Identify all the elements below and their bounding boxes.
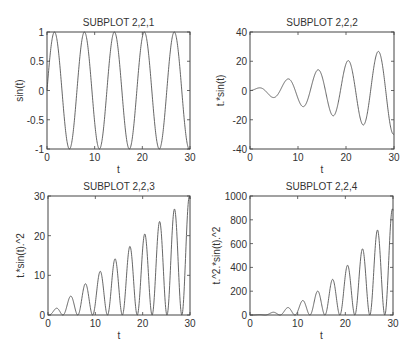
y-tick-label: 20 xyxy=(236,56,248,67)
subplot-1-line xyxy=(47,32,190,149)
x-tick-label: 10 xyxy=(89,152,101,163)
x-tick-label: 20 xyxy=(340,152,352,163)
y-tick-label: 400 xyxy=(230,262,247,273)
y-tick-label: -40 xyxy=(233,144,248,155)
y-tick-label: 0 xyxy=(39,310,45,321)
subplot-2: SUBPLOT 2,2,2 t t.*sin(t) 0102030-40-200… xyxy=(215,17,400,175)
y-tick-label: 30 xyxy=(34,191,46,202)
subplot-4: SUBPLOT 2,2,4 t t.^2.*sin(t).^2 01020300… xyxy=(211,181,399,341)
subplot-3-title: SUBPLOT 2,2,3 xyxy=(83,181,155,192)
subplot-2-title: SUBPLOT 2,2,2 xyxy=(286,17,358,28)
subplot-1-xlabel: t xyxy=(117,164,120,175)
x-tick-label: 30 xyxy=(387,318,399,329)
subplot-2-axes xyxy=(250,32,394,149)
subplot-4-xlabel: t xyxy=(320,330,323,341)
y-tick-label: 800 xyxy=(230,215,247,226)
subplot-4-ylabel: t.^2.*sin(t).^2 xyxy=(211,226,222,284)
y-tick-label: 10 xyxy=(34,270,46,281)
y-tick-label: 20 xyxy=(34,231,46,242)
y-tick-label: 1000 xyxy=(225,191,248,202)
y-tick-label: 0 xyxy=(241,310,247,321)
x-tick-label: 20 xyxy=(137,318,149,329)
x-tick-label: 10 xyxy=(292,318,304,329)
y-tick-label: 0 xyxy=(38,86,44,97)
y-tick-label: 1 xyxy=(38,27,44,38)
subplot-2-line xyxy=(250,51,394,134)
subplot-4-line xyxy=(250,209,393,315)
x-tick-label: 0 xyxy=(247,152,253,163)
y-tick-label: 600 xyxy=(230,239,247,250)
subplot-4-axes xyxy=(250,196,393,315)
subplot-1-ylabel: sin(t) xyxy=(14,79,25,101)
x-tick-label: 30 xyxy=(388,152,400,163)
y-tick-label: -0.5 xyxy=(27,115,45,126)
y-tick-label: -1 xyxy=(35,144,44,155)
y-tick-label: 40 xyxy=(236,27,248,38)
y-tick-label: -20 xyxy=(233,115,248,126)
x-tick-label: 20 xyxy=(137,152,149,163)
y-tick-label: 0 xyxy=(241,86,247,97)
x-tick-label: 0 xyxy=(247,318,253,329)
figure: SUBPLOT 2,2,1 t sin(t) 0102030-1-0.500.5… xyxy=(0,0,417,352)
subplot-3: SUBPLOT 2,2,3 t t.*sin(t).^2 01020300102… xyxy=(15,181,196,341)
x-tick-label: 10 xyxy=(90,318,102,329)
subplot-1-title: SUBPLOT 2,2,1 xyxy=(83,17,155,28)
subplot-4-title: SUBPLOT 2,2,4 xyxy=(286,181,358,192)
subplot-4-ticks: 010203002004006008001000 xyxy=(225,191,399,329)
x-tick-label: 30 xyxy=(184,152,196,163)
subplot-3-line xyxy=(48,197,190,315)
x-tick-label: 0 xyxy=(45,318,51,329)
subplot-1: SUBPLOT 2,2,1 t sin(t) 0102030-1-0.500.5… xyxy=(14,17,196,175)
subplot-3-ylabel: t.*sin(t).^2 xyxy=(15,233,26,278)
subplot-3-ticks: 01020300102030 xyxy=(34,191,196,329)
x-tick-label: 30 xyxy=(184,318,196,329)
subplot-2-xlabel: t xyxy=(321,164,324,175)
x-tick-label: 20 xyxy=(340,318,352,329)
x-tick-label: 0 xyxy=(44,152,50,163)
subplot-2-ticks: 0102030-40-2002040 xyxy=(233,27,400,163)
subplot-2-ylabel: t.*sin(t) xyxy=(215,75,226,107)
y-tick-label: 0.5 xyxy=(30,56,44,67)
y-tick-label: 200 xyxy=(230,286,247,297)
x-tick-label: 10 xyxy=(292,152,304,163)
subplot-3-xlabel: t xyxy=(118,330,121,341)
